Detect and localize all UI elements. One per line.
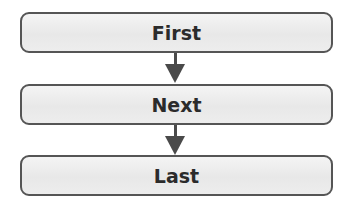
node-label: First	[152, 22, 201, 44]
flow-node-last: Last	[20, 155, 333, 196]
flow-node-next: Next	[20, 84, 333, 125]
node-label: Last	[154, 165, 199, 187]
arrow-down-icon	[165, 136, 185, 155]
arrow-down-icon	[165, 64, 185, 83]
flow-node-first: First	[20, 12, 333, 53]
node-label: Next	[151, 94, 201, 116]
